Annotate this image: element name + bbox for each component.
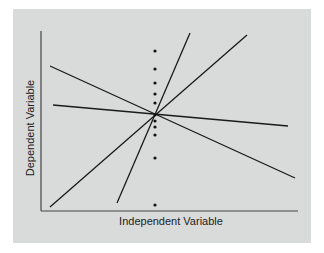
x-axis-label: Independent Variable xyxy=(0,215,324,227)
data-point xyxy=(153,133,156,136)
data-point xyxy=(153,119,156,122)
line-shallow-negative xyxy=(53,105,288,126)
data-point xyxy=(153,81,156,84)
data-points xyxy=(153,49,156,206)
data-point xyxy=(153,101,156,104)
data-point xyxy=(153,49,156,52)
line-moderate-negative xyxy=(50,66,295,178)
line-steep-positive xyxy=(117,33,190,203)
y-axis-label: Dependent Variable xyxy=(24,80,36,176)
data-point xyxy=(153,92,156,95)
data-point xyxy=(153,203,156,206)
regression-lines xyxy=(50,33,295,207)
data-point xyxy=(153,156,156,159)
line-moderate-positive xyxy=(50,35,247,207)
data-point xyxy=(153,67,156,70)
data-point xyxy=(153,113,156,116)
data-point xyxy=(153,125,156,128)
